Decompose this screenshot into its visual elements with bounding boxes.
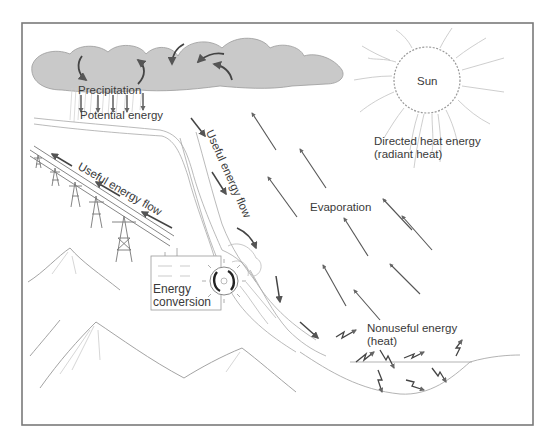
diagram-canvas: [0, 0, 552, 447]
label-directed-heat-2: (radiant heat): [374, 148, 442, 161]
label-directed-heat-1: Directed heat energy: [374, 135, 481, 148]
label-precipitation: Precipitation: [78, 84, 141, 97]
label-energy-conversion-2: conversion: [153, 296, 211, 309]
label-nonuseful-energy-1: Nonuseful energy: [367, 322, 457, 335]
label-sun: Sun: [417, 75, 437, 88]
river-waterfall: [34, 118, 326, 356]
lake: [300, 352, 520, 394]
label-nonuseful-energy-2: (heat): [367, 335, 397, 348]
label-potential-energy: Potential energy: [80, 109, 163, 122]
label-evaporation: Evaporation: [310, 201, 371, 214]
